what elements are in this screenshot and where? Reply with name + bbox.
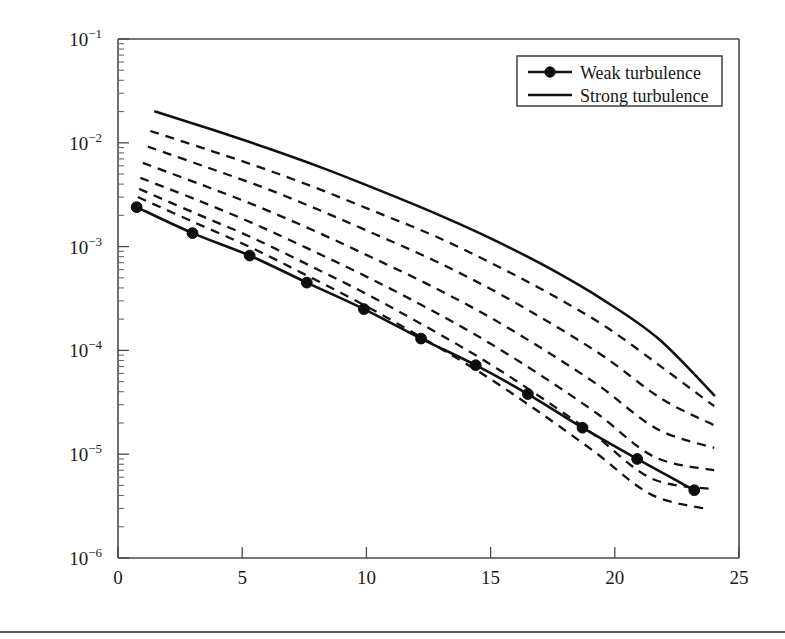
data-point-marker: [244, 250, 255, 261]
data-point-marker: [416, 333, 427, 344]
y-tick-label: 10−1: [69, 26, 102, 50]
series-intermediate-1: [150, 131, 714, 406]
y-axis-ticks: [118, 39, 129, 558]
y-tick-label: 10−2: [69, 130, 102, 154]
legend-swatch-weak-marker: [545, 67, 555, 77]
legend-label-weak-turbulence: Weak turbulence: [580, 63, 701, 83]
y-tick-label: 10−4: [69, 337, 102, 361]
series-weak-turbulence: [137, 207, 695, 490]
plot-frame: [118, 39, 739, 558]
series-intermediate-3: [143, 163, 714, 448]
x-tick-label: 10: [357, 567, 376, 588]
data-point-marker: [522, 389, 533, 400]
data-point-marker: [301, 277, 312, 288]
data-point-marker: [470, 360, 481, 371]
series-strong-turbulence: [155, 112, 714, 396]
y-tick-label: 10−5: [69, 441, 102, 465]
x-axis-ticks: [118, 547, 739, 558]
x-axis-tick-labels: 0510152025: [113, 567, 748, 588]
data-point-marker: [131, 202, 142, 213]
y-tick-label: 10−6: [69, 545, 102, 569]
data-point-marker: [187, 228, 198, 239]
series-intermediate-2: [148, 147, 714, 426]
legend-label-strong-turbulence: Strong turbulence: [580, 86, 708, 106]
data-point-marker: [359, 304, 370, 315]
ber-vs-snr-chart: 10−110−210−310−410−510−6 0510152025 Weak…: [0, 0, 785, 639]
data-point-marker: [689, 485, 700, 496]
x-tick-label: 20: [605, 567, 624, 588]
data-point-marker: [632, 454, 643, 465]
x-tick-label: 5: [237, 567, 247, 588]
x-tick-label: 25: [730, 567, 749, 588]
data-series-layer: [137, 112, 715, 509]
legend[interactable]: Weak turbulence Strong turbulence: [517, 56, 722, 106]
data-point-marker: [577, 422, 588, 433]
x-tick-label: 0: [113, 567, 123, 588]
y-tick-label: 10−3: [69, 234, 102, 258]
y-axis-tick-labels: 10−110−210−310−410−510−6: [69, 26, 102, 569]
x-tick-label: 15: [481, 567, 500, 588]
series-intermediate-4: [140, 178, 714, 470]
figure-container: 10−110−210−310−410−510−6 0510152025 Weak…: [0, 0, 785, 639]
